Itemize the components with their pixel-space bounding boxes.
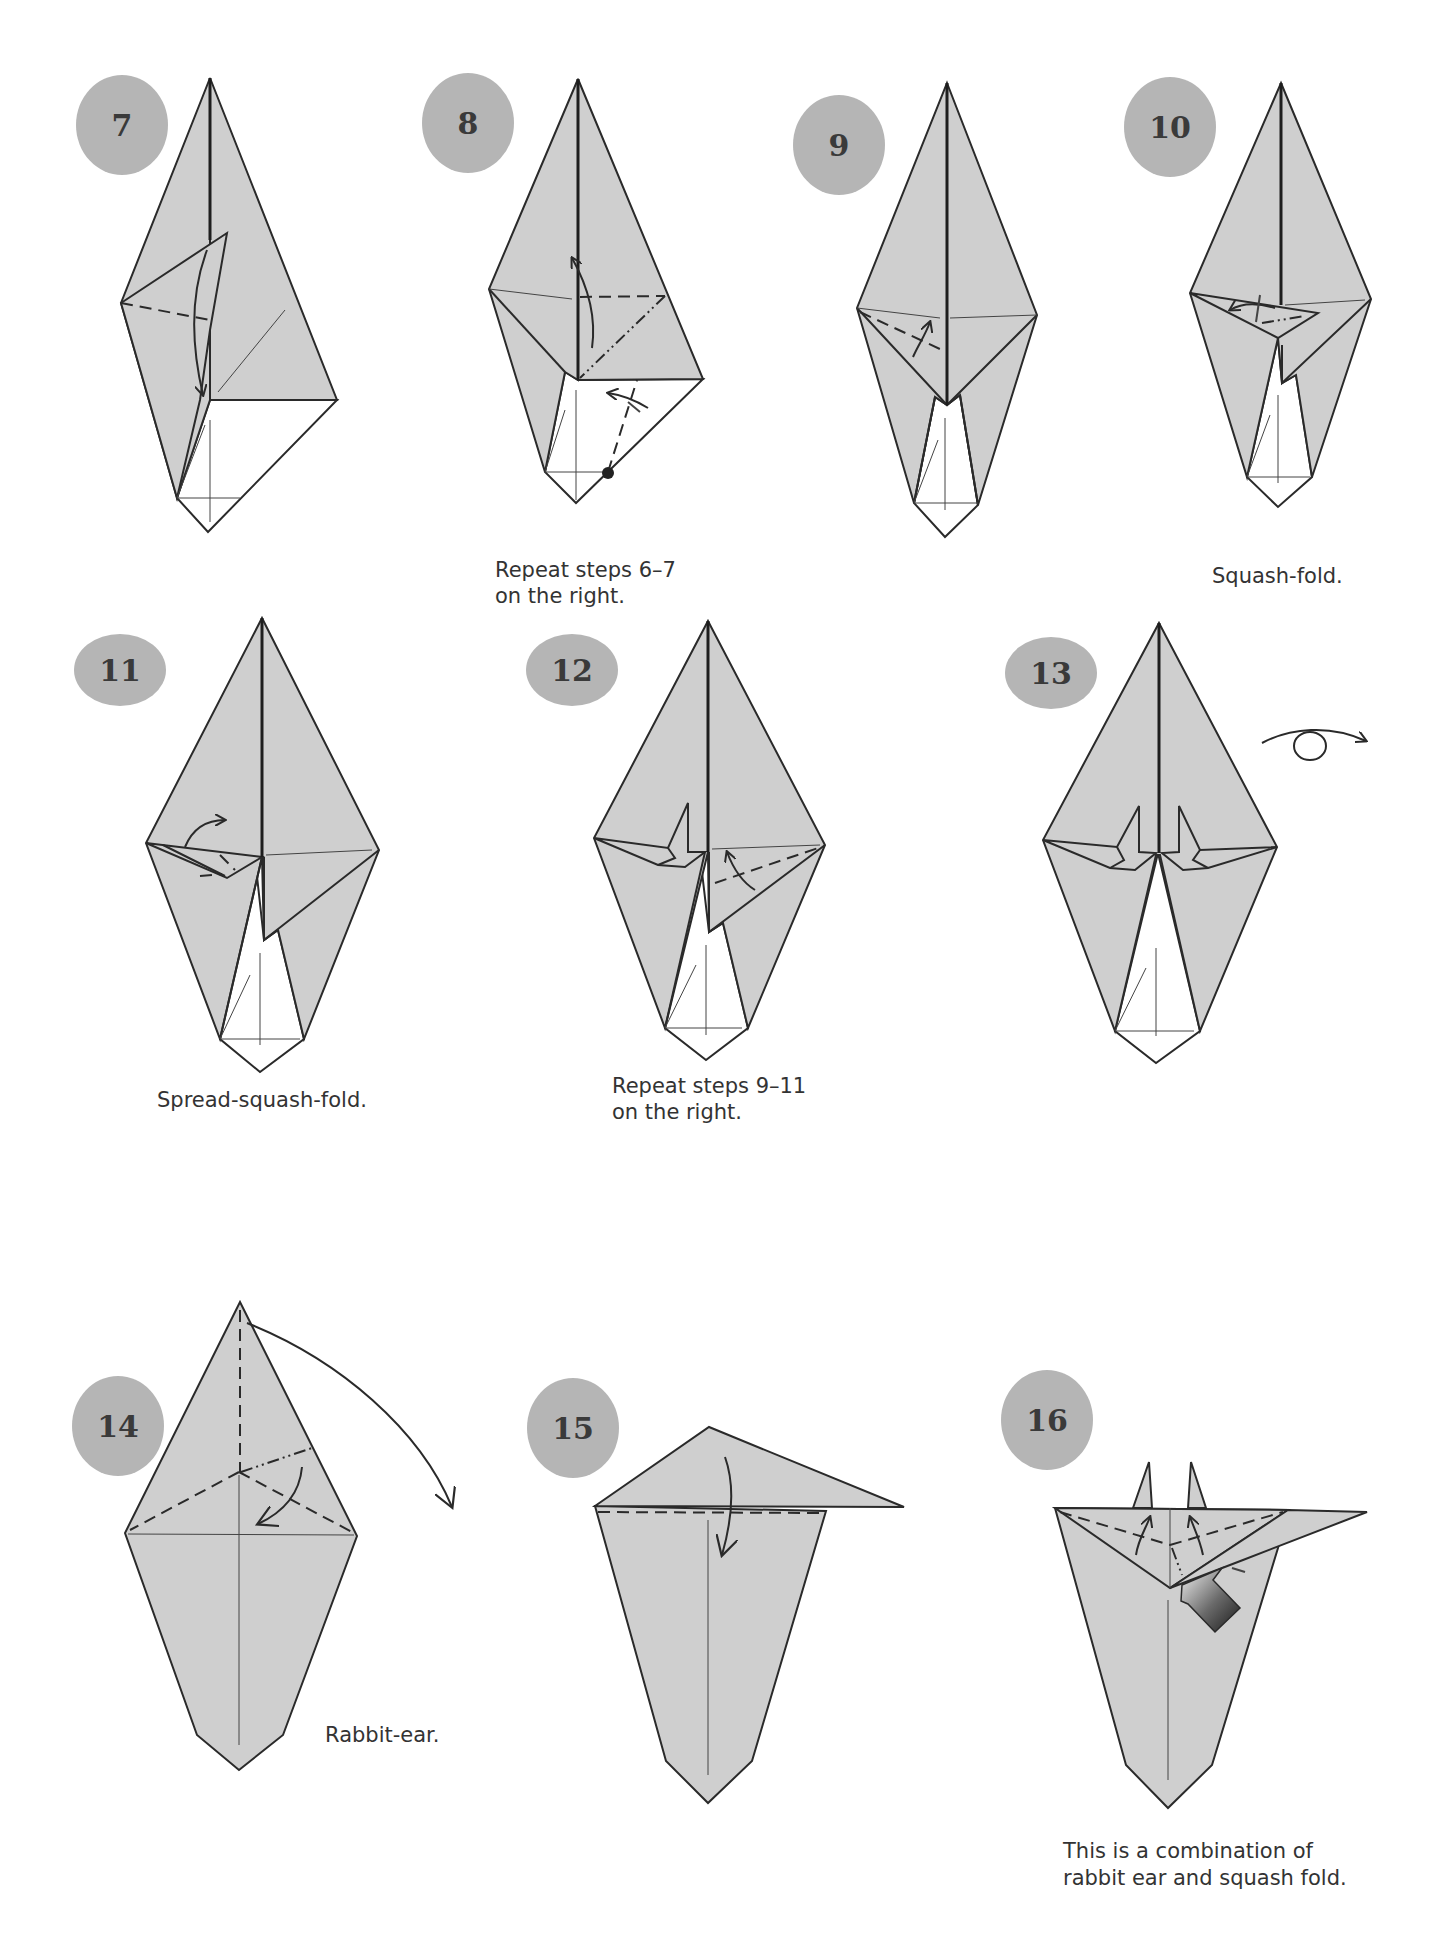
step-9: 9 (793, 83, 1037, 537)
step-badge: 14 (72, 1376, 164, 1476)
fold-figure (146, 618, 379, 1072)
step-13: 13 (1005, 623, 1366, 1063)
step-badge: 10 (1124, 77, 1216, 177)
step-badge: 11 (74, 634, 166, 706)
svg-text:This is a combination of: This is a combination of (1062, 1839, 1314, 1863)
step-badge: 12 (526, 634, 618, 706)
step-caption: This is a combination of rabbit ear and … (1062, 1839, 1347, 1890)
step-number: 16 (1026, 1403, 1068, 1438)
step-caption: Spread-squash-fold. (157, 1088, 367, 1112)
svg-text:Rabbit-ear.: Rabbit-ear. (325, 1723, 439, 1747)
fold-figure (125, 1302, 452, 1770)
fold-figure (1055, 1462, 1367, 1808)
step-12: 12 Repeat steps 9–11 on the right. (526, 621, 825, 1124)
svg-text:rabbit ear and squash fold.: rabbit ear and squash fold. (1063, 1866, 1347, 1890)
step-8: 8 Repeat steps 6–7 on the right. (422, 73, 703, 608)
fold-figure (595, 1427, 904, 1803)
step-11: 11 Spread-squash-fold. (74, 618, 379, 1112)
step-caption: Repeat steps 9–11 on the right. (612, 1074, 806, 1124)
svg-text:Repeat steps 9–11: Repeat steps 9–11 (612, 1074, 806, 1098)
step-number: 7 (112, 108, 133, 143)
step-7: 7 (76, 75, 337, 532)
step-number: 9 (829, 128, 850, 163)
step-number: 8 (458, 106, 479, 141)
step-caption: Squash-fold. (1212, 564, 1343, 588)
fold-figure (489, 79, 703, 503)
step-14: 14 Rabbit-ear. (72, 1302, 452, 1770)
step-10: 10 Squash-fold. (1124, 77, 1371, 588)
origami-diagram-page: 7 8 (0, 0, 1444, 1952)
step-badge: 7 (76, 75, 168, 175)
svg-text:Repeat steps 6–7: Repeat steps 6–7 (495, 558, 676, 582)
turn-over-icon (1262, 730, 1366, 760)
step-badge: 9 (793, 95, 885, 195)
step-number: 10 (1149, 110, 1191, 145)
step-number: 14 (97, 1409, 139, 1444)
step-16: 16 This is a combination of rabbit ear a… (1001, 1370, 1367, 1890)
step-caption: Rabbit-ear. (325, 1723, 439, 1747)
svg-text:on the right.: on the right. (495, 584, 625, 608)
step-number: 13 (1030, 656, 1072, 691)
step-badge: 15 (527, 1378, 619, 1478)
fold-figure (1190, 83, 1371, 507)
step-caption: Repeat steps 6–7 on the right. (495, 558, 676, 608)
step-number: 11 (99, 653, 141, 688)
step-number: 12 (551, 653, 593, 688)
step-badge: 8 (422, 73, 514, 173)
step-number: 15 (552, 1411, 594, 1446)
svg-text:Spread-squash-fold.: Spread-squash-fold. (157, 1088, 367, 1112)
step-badge: 16 (1001, 1370, 1093, 1470)
svg-text:on the right.: on the right. (612, 1100, 742, 1124)
step-badge: 13 (1005, 637, 1097, 709)
step-15: 15 (527, 1378, 904, 1803)
reference-dot (602, 467, 614, 479)
fold-figure (594, 621, 825, 1060)
svg-text:Squash-fold.: Squash-fold. (1212, 564, 1343, 588)
